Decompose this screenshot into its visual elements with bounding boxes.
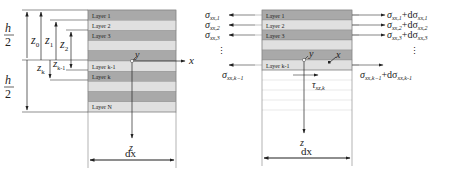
left-layer-label: Layer 2 [92,23,111,29]
origin-marker [130,59,133,62]
left-layer-label: Layer 1 [92,13,111,19]
right-dx-dimension: dx [262,70,352,166]
left-layer-label: Layer k [92,74,111,80]
x-axis-label: x [188,54,194,66]
left-layer-label: Layer 3 [92,33,111,39]
right-ellipsis: ⋮ [410,46,419,56]
h-half-top-label: h 2 [4,21,14,49]
right-layer-label: Layer 2 [266,23,285,29]
left-layer-label: Layer N [92,104,112,110]
laminate-diagram: Layer 1Layer 2Layer 3Layer k-1Layer kLay… [0,0,459,177]
right-layer-label: Layer k-1 [266,63,290,69]
left-ellipsis: ⋮ [217,46,226,56]
svg-text:2: 2 [5,87,11,101]
h-half-bottom-label: h 2 [4,73,14,101]
right-layer-stack: Layer 1Layer 2Layer 3Layer k-1 [262,10,352,70]
tau-xz-k-label: τxz,k [312,79,325,91]
z1-label: z1 [44,33,54,49]
z0-label: z0 [30,33,40,49]
right-origin-marker [302,58,305,61]
svg-text:h: h [5,73,11,87]
zk-minus-1-label: zk-1 [52,57,65,71]
sigma-xx-k-1-right: σxx,k−1+dσxx,k-1 [360,69,412,81]
right-faint-lines [262,80,352,110]
z2-label: z2 [59,37,69,53]
sigma-xx-k-1-left: σxx,k−1 [222,69,243,81]
right-x-axis-label: x [335,49,341,60]
right-layer-label: Layer 3 [266,33,285,39]
right-y-axis-label: y [308,48,314,59]
svg-text:dx: dx [125,147,137,159]
y-axis-label: y [134,49,140,60]
svg-text:h: h [5,21,11,35]
right-stress-arrows [352,15,385,65]
zk-label: zk [36,61,45,76]
h-half-dimension-arrows [27,12,71,110]
left-layer-label: Layer k-1 [92,64,116,70]
left-layer-4 [88,41,176,51]
svg-text:2: 2 [5,35,11,49]
left-panel: Layer 1Layer 2Layer 3Layer k-1Layer kLay… [4,10,194,168]
left-stress-arrows [229,15,255,65]
right-layer-label: Layer 1 [266,13,285,19]
svg-text:dx: dx [301,145,313,157]
right-panel: Layer 1Layer 2Layer 3Layer k-1 σxx,1 σxx… [205,9,428,166]
